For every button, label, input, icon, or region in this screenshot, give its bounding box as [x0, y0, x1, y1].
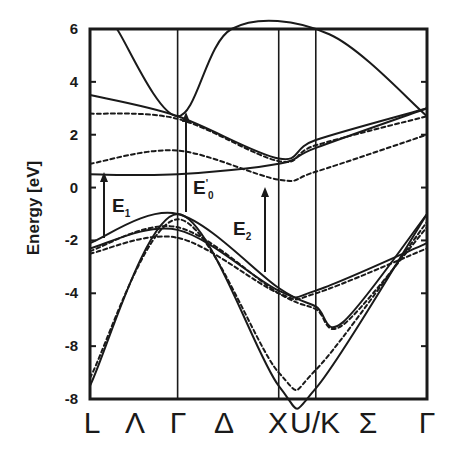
y-tick-label: -8 [44, 337, 78, 354]
y-tick-label: 6 [44, 20, 78, 37]
y-tick-label: 4 [44, 73, 78, 90]
y-tick-label: 2 [44, 126, 78, 143]
band-line [90, 108, 427, 175]
x-tick-label: L [84, 408, 101, 438]
y-tick-label: 0 [44, 179, 78, 196]
y-tick-label: -4 [44, 284, 78, 301]
band-line [117, 21, 427, 116]
x-tick-label: Δ [214, 408, 234, 438]
band-line [90, 135, 427, 181]
transition-label: E2 [233, 219, 251, 242]
x-tick-label: X [268, 408, 288, 438]
transition-label: E'0 [193, 178, 214, 201]
x-tick-label: Λ [125, 408, 145, 438]
y-axis-label: Energy [eV] [24, 161, 44, 255]
band-curves [90, 21, 427, 409]
transition-arrows [100, 112, 269, 272]
x-tick-label: U/K [290, 408, 340, 438]
x-tick-label: Γ [419, 408, 436, 438]
band-line [90, 214, 427, 409]
arrow-head-icon [261, 187, 269, 197]
x-tick-label: Γ [170, 408, 187, 438]
band-line [90, 114, 427, 163]
band-line [90, 219, 427, 390]
transition-label: E1 [112, 196, 130, 219]
plot-frame [90, 29, 427, 399]
x-tick-label: Σ [359, 408, 378, 438]
arrow-head-icon [100, 172, 108, 182]
y-tick-label: -2 [44, 231, 78, 248]
y-tick-label: -8 [44, 390, 78, 407]
